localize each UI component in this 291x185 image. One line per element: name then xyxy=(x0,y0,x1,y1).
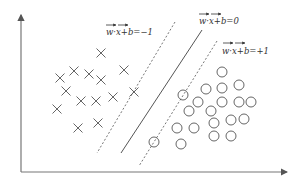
circle-point xyxy=(172,123,182,133)
positive-margin-label: w·x+b=+1 xyxy=(222,43,269,56)
cross-point xyxy=(85,70,94,79)
negative-class-points xyxy=(53,49,139,133)
circle-point xyxy=(189,123,199,133)
cross-point xyxy=(77,97,86,106)
positive-margin-equation: w·x+b=+1 xyxy=(222,46,269,56)
circle-point xyxy=(226,131,236,141)
circle-point xyxy=(217,97,227,107)
circle-point xyxy=(184,106,194,116)
svm-diagram: w·x+b=−1 w·x+b=0 w·x+b=+1 xyxy=(0,0,291,185)
cross-point xyxy=(94,119,103,128)
cross-point xyxy=(97,76,106,85)
support-vector-cross xyxy=(130,88,139,97)
cross-point xyxy=(62,87,71,96)
circle-point xyxy=(239,114,249,124)
circle-point xyxy=(234,97,244,107)
decision-boundary-label: w·x+b=0 xyxy=(199,14,239,26)
cross-point xyxy=(92,97,101,106)
circle-point xyxy=(234,80,244,90)
circle-point xyxy=(206,106,216,116)
cross-point xyxy=(97,49,106,58)
decision-boundary-equation: w·x+b=0 xyxy=(199,16,239,26)
circle-point xyxy=(209,131,219,141)
circle-point xyxy=(246,97,256,107)
cross-point xyxy=(109,93,118,102)
cross-point xyxy=(56,74,65,83)
support-vector-circle xyxy=(149,137,159,147)
support-vector-circle xyxy=(178,90,188,100)
cross-point xyxy=(53,105,62,114)
circle-point xyxy=(201,84,211,94)
circle-point xyxy=(176,139,186,149)
circle-point xyxy=(217,83,227,93)
circle-point xyxy=(193,97,203,107)
circle-point xyxy=(209,118,219,128)
cross-point xyxy=(74,124,83,133)
cross-point xyxy=(120,66,129,75)
diagram-canvas: w·x+b=−1 w·x+b=0 w·x+b=+1 xyxy=(0,0,291,185)
positive-class-points xyxy=(149,67,256,149)
cross-point xyxy=(70,67,79,76)
negative-margin-label: w·x+b=−1 xyxy=(106,25,153,37)
circle-point xyxy=(217,67,227,77)
negative-margin-line xyxy=(97,22,175,153)
circle-point xyxy=(226,115,236,125)
negative-margin-equation: w·x+b=−1 xyxy=(106,27,153,37)
positive-margin-line xyxy=(139,41,217,166)
